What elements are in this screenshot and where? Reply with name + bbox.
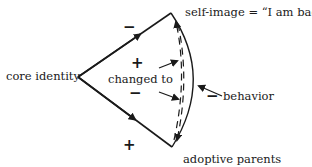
node-core-identity: core identity [6, 71, 80, 83]
node-behavior: behavior [223, 91, 274, 103]
changed-to-arrow-upper [159, 61, 177, 68]
sign-minus-lower-inner: − [129, 86, 142, 101]
sign-plus-upper-inner: + [131, 56, 144, 71]
node-self-image: self-image = “I am bad” [185, 7, 312, 19]
changed-to-arrow-lower [159, 92, 178, 99]
sign-minus-upper-edge: − [123, 20, 136, 35]
identity-diagram: self-image = “I am bad” core identity ch… [0, 0, 312, 167]
sign-plus-lower-edge: + [123, 138, 136, 153]
arc-solid [171, 13, 193, 147]
sign-minus-behavior: − [206, 89, 219, 104]
node-adoptive-parents: adoptive parents [183, 154, 281, 166]
